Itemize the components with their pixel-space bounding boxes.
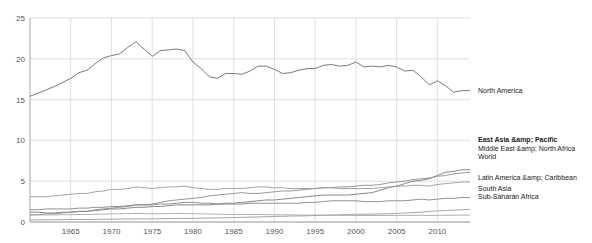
y-axis-tick-label: 20 — [16, 55, 25, 64]
series-line — [30, 198, 470, 210]
series-line — [30, 42, 470, 97]
x-axis-tick-label: 1990 — [266, 227, 284, 236]
x-axis-tick-label: 1980 — [184, 227, 202, 236]
series-label-east-asia-pacific: East Asia &amp; Pacific — [478, 135, 558, 144]
series-label-latin-america-caribbean: Latin America &amp; Caribbean — [478, 173, 577, 182]
x-axis-tick-label: 1985 — [225, 227, 243, 236]
x-axis-tick-label: 1995 — [306, 227, 324, 236]
y-axis-tick-label: 25 — [16, 14, 25, 23]
x-axis-tick-label: 1970 — [103, 227, 121, 236]
series-label-world: World — [478, 152, 496, 161]
y-axis-tick-label: 10 — [16, 136, 25, 145]
chart-container: 0510152025196519701975198019851990199520… — [0, 0, 592, 243]
x-axis-tick-label: 1975 — [143, 227, 161, 236]
x-axis-tick-label: 1965 — [62, 227, 80, 236]
x-axis-tick-label: 2010 — [429, 227, 447, 236]
y-axis-tick-label: 15 — [16, 96, 25, 105]
x-axis-tick-label: 2005 — [388, 227, 406, 236]
x-axis-tick-label: 2000 — [347, 227, 365, 236]
y-axis-tick-label: 0 — [21, 218, 26, 227]
line-chart-plot: 0510152025196519701975198019851990199520… — [0, 0, 592, 243]
series-label-sub-saharan-africa: Sub-Saharan Africa — [478, 192, 539, 201]
series-line — [30, 213, 470, 215]
y-axis-tick-label: 5 — [21, 177, 26, 186]
series-label-north-america: North America — [478, 86, 522, 95]
series-line — [30, 172, 470, 214]
